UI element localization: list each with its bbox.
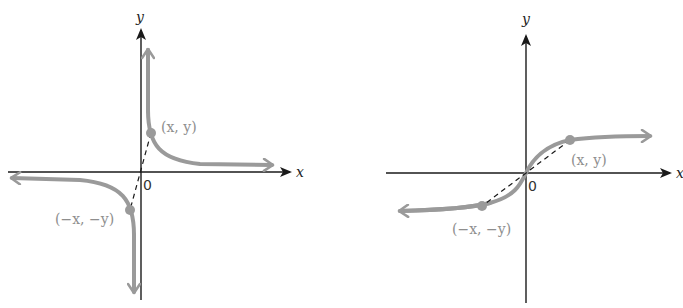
odd-function-diagrams: y x 0 (x, y) (−x, −y) y x 0 (x, y) (−x, …: [0, 0, 683, 308]
curve-branch-q1: [148, 50, 272, 165]
point-label: (x, y): [161, 119, 197, 135]
point-neg-x-neg-y: [477, 201, 487, 211]
origin-label: 0: [528, 178, 537, 194]
y-axis-label: y: [135, 9, 145, 25]
x-axis-label: x: [676, 165, 683, 181]
figure-right-s-curve: y x 0 (x, y) (−x, −y): [386, 11, 683, 303]
point-neg-x-neg-y: [125, 205, 135, 215]
figure-left-hyperbola: y x 0 (x, y) (−x, −y): [8, 9, 304, 300]
curve-branch-q3: [12, 178, 134, 290]
x-axis-label: x: [296, 164, 304, 180]
reflected-point-label: (−x, −y): [55, 211, 114, 227]
s-curve-left-arrow: [400, 203, 490, 211]
y-axis-label: y: [521, 11, 531, 27]
point-x-y: [146, 128, 156, 138]
point-label: (x, y): [571, 152, 607, 168]
point-x-y: [565, 135, 575, 145]
origin-label: 0: [143, 177, 152, 193]
reflected-point-label: (−x, −y): [452, 221, 511, 237]
